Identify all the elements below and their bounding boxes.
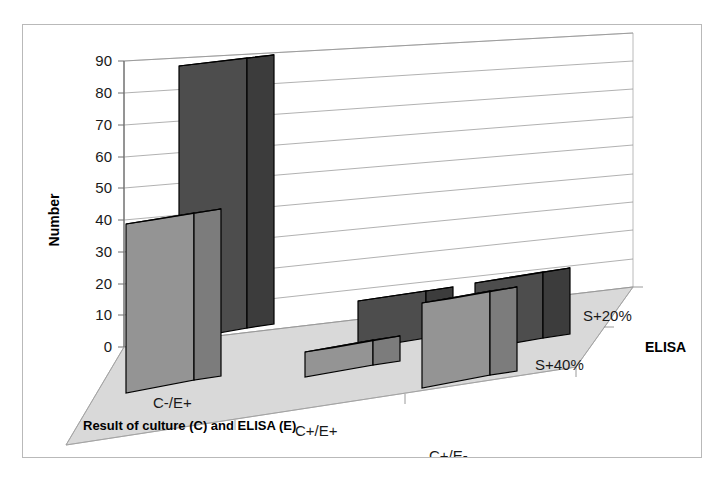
x-axis-title: Result of culture (C) and ELISA (E) bbox=[83, 418, 296, 433]
series-label-back: S+20% bbox=[583, 307, 632, 324]
series-label-front: S+40% bbox=[535, 356, 584, 373]
y-tick-70: 70 bbox=[95, 116, 112, 133]
y-tick-20: 20 bbox=[95, 275, 112, 292]
y-tick-90: 90 bbox=[95, 52, 112, 69]
chart-page: 90 80 70 60 50 40 30 20 10 0 Number bbox=[0, 0, 722, 479]
y-tick-10: 10 bbox=[95, 306, 112, 323]
cat-label-0: C-/E+ bbox=[153, 394, 192, 411]
y-tick-30: 30 bbox=[95, 243, 112, 260]
y-tick-80: 80 bbox=[95, 84, 112, 101]
cat-label-1: C+/E+ bbox=[295, 422, 338, 439]
y-tick-40: 40 bbox=[95, 211, 112, 228]
bar-front-c-plus-e-minus[interactable] bbox=[422, 287, 517, 388]
y-tick-0: 0 bbox=[104, 338, 112, 355]
cat-label-2: C+/E- bbox=[429, 447, 468, 457]
y-axis-title: Number bbox=[46, 193, 62, 246]
bar-front-c-minus-e-plus[interactable] bbox=[126, 209, 221, 393]
bar-chart-3d: 90 80 70 60 50 40 30 20 10 0 Number bbox=[23, 25, 701, 457]
z-axis-title: ELISA bbox=[645, 339, 686, 355]
y-tick-60: 60 bbox=[95, 148, 112, 165]
y-axis bbox=[118, 61, 124, 347]
chart-frame: 90 80 70 60 50 40 30 20 10 0 Number bbox=[22, 24, 702, 458]
y-tick-labels: 90 80 70 60 50 40 30 20 10 0 bbox=[95, 52, 112, 355]
y-tick-50: 50 bbox=[95, 179, 112, 196]
